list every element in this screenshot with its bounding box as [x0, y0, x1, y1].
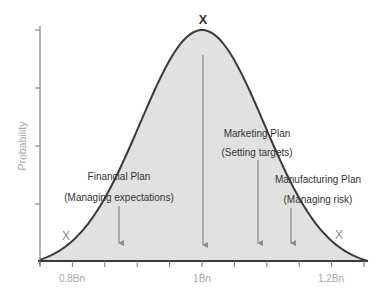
x-tick-label-1.2bn: 1.2Bn — [318, 273, 344, 284]
probability-chart: Probability 0.8Bn 1Bn 1.2Bn X X X Financ… — [0, 0, 387, 300]
marker-peak-x: X — [199, 13, 208, 27]
financial-plan-subtitle: (Managing expectations) — [64, 192, 174, 203]
y-axis-label: Probability — [16, 121, 28, 171]
marketing-plan-subtitle: (Setting targets) — [221, 147, 292, 158]
x-tick-label-0.8bn: 0.8Bn — [59, 273, 85, 284]
marketing-plan-title: Marketing Plan — [224, 128, 291, 139]
marker-left-x: X — [62, 229, 70, 243]
manufacturing-plan-title: Manufacturing Plan — [275, 174, 361, 185]
x-tick-label-1bn: 1Bn — [193, 273, 211, 284]
financial-plan-title: Financial Plan — [88, 171, 151, 182]
marker-right-x: X — [335, 228, 343, 242]
y-axis-ticks — [35, 30, 40, 204]
manufacturing-plan-subtitle: (Managing risk) — [284, 194, 353, 205]
